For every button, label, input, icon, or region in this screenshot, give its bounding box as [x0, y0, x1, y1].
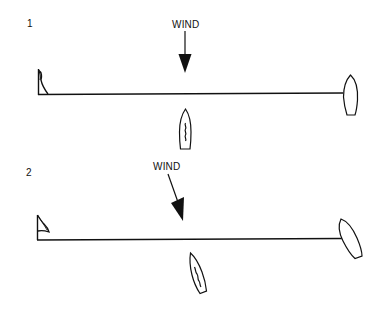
flag-icon: [38, 215, 50, 240]
sailboat-icon: [190, 253, 207, 294]
start-line: [38, 93, 343, 95]
flag-icon: [39, 69, 49, 95]
wind-arrow-angled-icon: [168, 174, 184, 221]
panel-2: [37, 174, 362, 294]
panel-1: [38, 31, 358, 149]
diagram-canvas: [0, 0, 385, 310]
sailboat-icon: [180, 109, 192, 149]
wind-label-2: WIND: [153, 161, 180, 172]
panel-number-2: 2: [26, 167, 32, 178]
wind-label-1: WIND: [172, 19, 199, 30]
panel-number-1: 1: [27, 18, 33, 29]
committee-boat-icon: [344, 75, 358, 115]
wind-arrow-icon: [179, 31, 192, 73]
committee-boat-icon: [339, 219, 362, 259]
start-line: [37, 239, 342, 241]
